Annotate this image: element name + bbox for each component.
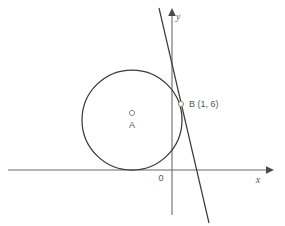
geometry-figure: x y 0 A B (1, 6) xyxy=(0,0,285,226)
y-axis-label: y xyxy=(175,11,181,22)
geometry-diagram-canvas: x y 0 A B (1, 6) xyxy=(0,0,285,226)
y-axis-group: y xyxy=(168,8,181,215)
point-a-group: A xyxy=(129,110,135,130)
origin-label: 0 xyxy=(158,173,163,183)
y-axis-arrowhead xyxy=(168,8,176,16)
tangent-line-at-b xyxy=(159,8,209,223)
x-axis-arrowhead xyxy=(266,166,274,174)
point-a-marker xyxy=(129,110,134,115)
point-b-label: B (1, 6) xyxy=(189,99,219,109)
x-axis-label: x xyxy=(255,174,261,185)
point-b-group: B (1, 6) xyxy=(178,99,218,109)
point-b-marker xyxy=(178,101,183,106)
point-a-label: A xyxy=(129,120,135,130)
